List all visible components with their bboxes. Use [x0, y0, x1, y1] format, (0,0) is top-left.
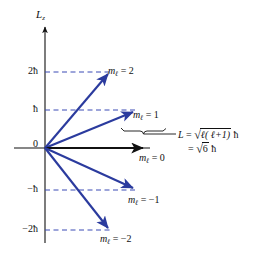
sqrt-icon-2: √: [196, 143, 203, 155]
tick-label-1hbar: ħ: [4, 104, 38, 114]
y-axis-label: Lz: [36, 9, 45, 22]
vector-ml-minus1: [45, 148, 133, 188]
angular-momentum-vector-diagram: Lz 2ħ ħ 0 −ħ −2ħ mℓ = 2 mℓ = 1 mℓ = 0 mℓ…: [0, 0, 259, 267]
vector-label-ml-minus2: mℓ = −2: [100, 234, 131, 246]
vector-label-ml-2: mℓ = 2: [108, 66, 134, 78]
tick-label-minus1hbar: −ħ: [4, 184, 38, 194]
vector-label-ml-1: mℓ = 1: [133, 110, 159, 122]
vector-ml-2: [45, 74, 108, 148]
tick-label-minus2hbar: −2ħ: [4, 224, 38, 234]
tick-label-zero: 0: [4, 139, 38, 149]
magnitude-formula: L = √ℓ( ℓ+1) ħ = √6 ħ: [178, 128, 239, 154]
magnitude-formula-line1: L = √ℓ( ℓ+1) ħ: [178, 128, 239, 140]
magnitude-brace: [121, 128, 166, 134]
vector-label-ml-0: mℓ = 0: [139, 153, 165, 165]
vector-ml-1: [45, 112, 133, 148]
sqrt-icon: √: [194, 129, 201, 141]
magnitude-formula-line2: = √6 ħ: [178, 142, 239, 154]
vector-label-ml-minus1: mℓ = −1: [128, 195, 159, 207]
vector-ml-minus2: [45, 148, 108, 228]
tick-label-2hbar: 2ħ: [4, 66, 38, 76]
